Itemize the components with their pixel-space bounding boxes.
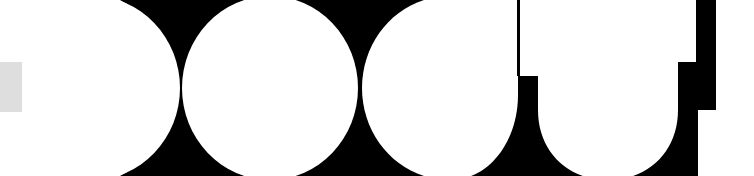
circle-1 [182, 0, 358, 176]
divider-line-1 [517, 0, 520, 64]
stem-2 [678, 108, 698, 176]
abstract-graphic [0, 0, 754, 176]
gray-marker [0, 62, 22, 112]
left-blob-round [4, 0, 180, 176]
circle-2 [362, 0, 518, 176]
block-2 [678, 62, 716, 110]
right-strip-lower [698, 110, 754, 176]
divider-line-2 [696, 0, 699, 64]
